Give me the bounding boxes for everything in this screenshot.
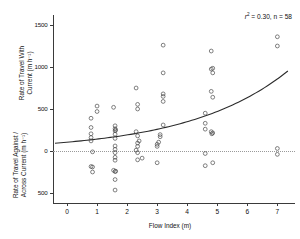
data-point: [136, 134, 140, 138]
data-point: [211, 95, 215, 99]
data-point: [161, 43, 165, 47]
data-point: [113, 144, 117, 148]
data-point: [134, 86, 138, 90]
data-point: [211, 66, 215, 70]
zero-reference-line: [53, 151, 295, 152]
data-point: [161, 95, 165, 99]
data-point: [275, 44, 279, 48]
x-axis-title: Flow Index (m): [110, 222, 230, 230]
data-point: [95, 110, 99, 114]
data-point: [89, 126, 93, 130]
data-point: [275, 147, 279, 151]
x-axis-tick-label: 3: [147, 208, 167, 215]
x-axis-tick-label: 6: [237, 208, 257, 215]
fitted-curve: [55, 71, 288, 143]
y-axis-tick: [50, 25, 53, 26]
x-axis-tick: [217, 203, 218, 206]
data-point: [210, 132, 214, 136]
data-point: [136, 107, 140, 111]
y-axis-title-lower-line: Across Current (m h⁻¹): [20, 109, 28, 221]
y-axis-title-lower: Rate of Travel Against /Across Current (…: [12, 109, 27, 221]
data-point: [211, 131, 215, 135]
data-point: [209, 89, 213, 93]
x-axis-tick-label: 5: [207, 208, 227, 215]
x-axis-tick-label: 2: [117, 208, 137, 215]
data-point: [209, 130, 213, 134]
y-axis-tick: [50, 193, 53, 194]
y-axis-tick: [50, 109, 53, 110]
data-point: [211, 161, 215, 165]
y-axis-tick-label: 500: [19, 105, 47, 112]
data-point: [209, 67, 213, 71]
data-point: [161, 71, 165, 75]
x-axis-tick: [157, 203, 158, 206]
data-point: [136, 141, 140, 145]
data-point: [113, 178, 117, 182]
data-point: [113, 188, 117, 192]
data-point: [113, 155, 117, 159]
data-point: [114, 128, 118, 132]
data-point: [158, 135, 162, 139]
x-axis-tick-label: 7: [267, 208, 287, 215]
data-point: [275, 35, 279, 39]
y-axis-tick: [50, 67, 53, 68]
data-point: [161, 100, 165, 104]
data-point: [113, 129, 117, 133]
data-point: [155, 144, 159, 148]
data-point: [203, 127, 207, 131]
data-point: [89, 136, 93, 140]
data-point: [211, 71, 215, 75]
data-point: [114, 169, 118, 173]
data-point: [113, 158, 117, 162]
data-point: [140, 156, 144, 160]
data-point: [155, 142, 159, 146]
x-axis-tick-label: 0: [57, 208, 77, 215]
x-axis-tick-label: 4: [177, 208, 197, 215]
data-point: [113, 127, 117, 131]
data-point: [275, 152, 279, 156]
data-point: [113, 124, 117, 128]
data-point: [161, 92, 165, 96]
data-point: [203, 164, 207, 168]
data-point: [136, 144, 140, 148]
y-axis-tick-label: 0: [19, 147, 47, 154]
y-axis-tick-label: 1500: [19, 21, 47, 28]
data-point: [89, 165, 93, 169]
x-axis-tick-label: 1: [87, 208, 107, 215]
data-point: [113, 132, 117, 136]
data-point: [158, 133, 162, 137]
data-point: [137, 139, 141, 143]
data-point: [203, 111, 207, 115]
y-axis-title-lower-line: Rate of Travel Against /: [12, 109, 20, 221]
x-axis-tick: [247, 203, 248, 206]
y-axis-tick-label: 1000: [19, 63, 47, 70]
data-point: [157, 140, 161, 144]
data-point: [136, 158, 140, 162]
data-point: [91, 165, 95, 169]
x-axis-tick: [97, 203, 98, 206]
data-point: [113, 137, 117, 141]
x-axis-tick: [67, 203, 68, 206]
data-point: [112, 105, 116, 109]
data-point: [89, 139, 93, 143]
data-point: [89, 132, 93, 136]
stats-annotation: r2 = 0.30, n = 58: [245, 12, 292, 20]
y-axis-tick-label: 500: [19, 189, 47, 196]
x-axis-tick: [127, 203, 128, 206]
data-point: [112, 168, 116, 172]
data-point: [203, 152, 207, 156]
data-point: [136, 102, 140, 106]
data-point: [89, 116, 93, 120]
scatter-plot-figure: Rate of Travel WithCurrent (m h⁻¹) Rate …: [0, 0, 300, 239]
y-axis-spine: [53, 15, 54, 203]
data-point: [134, 130, 138, 134]
x-axis-spine: [53, 203, 295, 204]
data-point: [95, 104, 99, 108]
x-axis-tick: [187, 203, 188, 206]
data-point: [209, 49, 213, 53]
data-point: [113, 170, 117, 174]
x-axis-tick: [277, 203, 278, 206]
data-point: [161, 123, 165, 127]
data-point: [203, 121, 207, 125]
data-point: [155, 161, 159, 165]
